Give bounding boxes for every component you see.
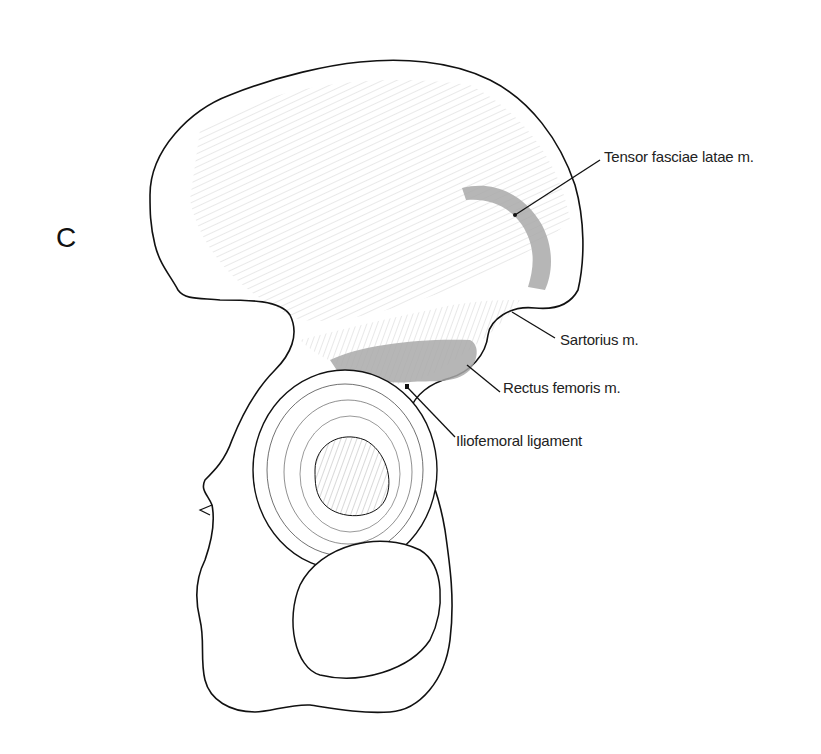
label-tensor-fasciae-latae: Tensor fasciae latae m. [604, 148, 754, 165]
label-iliofemoral-ligament: Iliofemoral ligament [456, 432, 582, 449]
leader-sartorius [512, 312, 555, 338]
panel-letter: C [56, 222, 76, 254]
leader-rectus [467, 365, 500, 392]
hip-bone-figure: C Tensor fasciae latae m. Sartorius m. R… [0, 0, 821, 754]
label-rectus-femoris: Rectus femoris m. [503, 379, 620, 396]
label-sartorius: Sartorius m. [560, 331, 638, 348]
hip-bone-illustration [0, 0, 821, 754]
